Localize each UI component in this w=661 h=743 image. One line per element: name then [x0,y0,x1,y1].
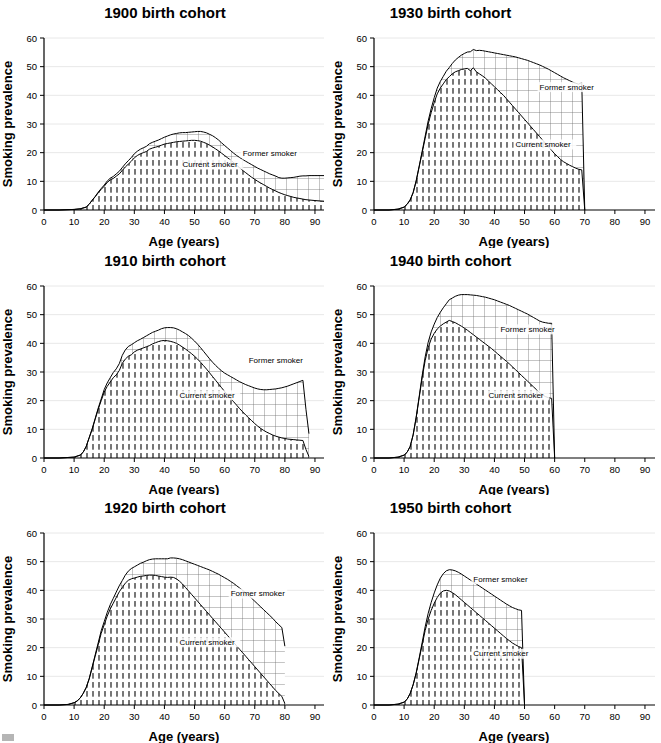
x-tick-label: 30 [459,711,470,722]
y-tick-label: 30 [356,367,367,378]
svg-text:Former smoker: Former smoker [473,575,528,584]
y-tick-label: 50 [26,309,37,320]
x-axis-label: Age (years) [149,729,220,743]
panel-cohort-1930: 1930 birth cohort 0102030405060010203040… [330,0,661,248]
y-axis-label: Smoking prevalence [0,309,15,435]
y-tick-label: 10 [26,176,37,187]
y-tick-label: 0 [32,700,37,711]
x-tick-label: 40 [159,464,170,475]
chart-svg-cohort-1900: 01020304050600102030405060708090Age (yea… [0,24,330,248]
svg-text:Current smoker: Current smoker [179,391,234,400]
x-tick-label: 50 [189,464,200,475]
plot-area: 01020304050600102030405060708090Age (yea… [330,519,661,743]
plot-area: 01020304050600102030405060708090Age (yea… [0,519,330,743]
x-tick-label: 70 [579,464,590,475]
x-tick-label: 50 [519,711,530,722]
x-axis-label: Age (years) [479,729,550,743]
y-tick-label: 10 [26,671,37,682]
x-tick-label: 0 [371,216,376,227]
x-tick-label: 20 [429,216,440,227]
y-tick-label: 40 [26,338,37,349]
x-tick-label: 90 [310,464,321,475]
y-axis-label: Smoking prevalence [0,556,15,682]
svg-text:Former smoker: Former smoker [500,325,555,334]
x-tick-label: 70 [249,464,260,475]
x-tick-label: 80 [280,216,291,227]
x-tick-label: 40 [489,711,500,722]
y-axis-label: Smoking prevalence [330,556,345,682]
y-tick-label: 20 [356,642,367,653]
x-tick-label: 50 [189,711,200,722]
y-tick-label: 0 [362,205,367,216]
former-smoker-annotation: Former smoker [247,356,306,366]
x-tick-label: 40 [489,216,500,227]
former-smoker-annotation: Former smoker [241,148,300,158]
y-tick-label: 20 [356,395,367,406]
former-smoker-annotation: Former smoker [498,324,557,334]
x-tick-label: 0 [41,464,46,475]
x-tick-label: 20 [99,711,110,722]
x-tick-label: 20 [99,216,110,227]
y-tick-label: 20 [356,147,367,158]
x-axis-label: Age (years) [149,234,220,248]
x-tick-label: 30 [459,216,470,227]
panel-cohort-1900: 1900 birth cohort 0102030405060010203040… [0,0,330,248]
y-tick-label: 10 [356,424,367,435]
y-axis-label: Smoking prevalence [0,61,15,187]
svg-text:Former smoker: Former smoker [249,356,304,365]
x-tick-label: 40 [489,464,500,475]
y-tick-label: 60 [26,281,37,292]
x-axis-label: Age (years) [149,482,220,495]
x-tick-label: 60 [219,464,230,475]
x-tick-label: 10 [399,711,410,722]
current-smoker-annotation: Current smoker [514,139,577,149]
x-tick-label: 60 [549,216,560,227]
y-tick-label: 60 [356,528,367,539]
panel-title: 1950 birth cohort [330,499,661,516]
x-axis-label: Age (years) [479,482,550,495]
x-tick-label: 90 [310,711,321,722]
x-tick-label: 0 [371,711,376,722]
y-tick-label: 30 [26,367,37,378]
x-tick-label: 0 [371,464,376,475]
y-tick-label: 0 [32,205,37,216]
x-tick-label: 80 [610,216,621,227]
y-tick-label: 30 [356,614,367,625]
x-tick-label: 90 [640,711,651,722]
x-tick-label: 70 [249,216,260,227]
x-tick-label: 20 [99,464,110,475]
y-tick-label: 50 [356,556,367,567]
x-tick-label: 30 [129,464,140,475]
current-smoker-annotation: Current smoker [177,637,240,647]
svg-text:Former smoker: Former smoker [540,83,595,92]
chart-svg-cohort-1950: 01020304050600102030405060708090Age (yea… [330,519,661,743]
x-tick-label: 60 [549,464,560,475]
chart-svg-cohort-1930: 01020304050600102030405060708090Age (yea… [330,24,661,248]
svg-text:Former smoker: Former smoker [231,589,286,598]
x-tick-label: 20 [429,711,440,722]
x-tick-label: 40 [159,216,170,227]
former-smoker-annotation: Former smoker [471,574,530,584]
y-tick-label: 60 [26,33,37,44]
former-smoker-annotation: Former smoker [229,589,288,599]
svg-text:Current smoker: Current smoker [516,140,571,149]
panel-title: 1910 birth cohort [0,252,330,269]
y-tick-label: 40 [356,338,367,349]
svg-text:Former smoker: Former smoker [243,149,298,158]
y-tick-label: 0 [362,453,367,464]
current-smoker-annotation: Current smoker [471,649,534,659]
chart-svg-cohort-1910: 01020304050600102030405060708090Age (yea… [0,272,330,495]
y-tick-label: 10 [356,671,367,682]
x-tick-label: 50 [519,464,530,475]
y-tick-label: 50 [26,556,37,567]
y-tick-label: 20 [26,147,37,158]
y-tick-label: 10 [356,176,367,187]
y-axis-label: Smoking prevalence [330,309,345,435]
current-smoker-annotation: Current smoker [177,390,240,400]
plot-area: 01020304050600102030405060708090Age (yea… [330,24,661,248]
y-tick-label: 50 [26,61,37,72]
svg-text:Current smoker: Current smoker [179,638,234,647]
panel-cohort-1910: 1910 birth cohort 0102030405060010203040… [0,248,330,495]
panel-cohort-1940: 1940 birth cohort 0102030405060010203040… [330,248,661,495]
x-tick-label: 10 [399,464,410,475]
